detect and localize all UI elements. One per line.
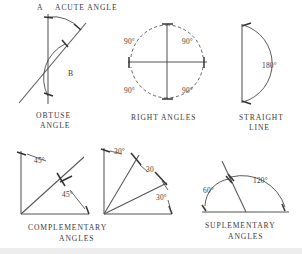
complementary-upper-value: 45° (34, 156, 45, 165)
thirds-right-arrow (169, 206, 172, 214)
figure-straight-line: 180° STRAIGHT LINE (239, 23, 284, 132)
quadrant-upper-left-value: 90° (124, 37, 135, 46)
complementary-diagonal-ray (21, 157, 84, 214)
thirds-third-value: 30° (156, 193, 167, 202)
supplementary-transversal-ray (222, 161, 246, 212)
obtuse-arc-start-arrow (62, 40, 68, 47)
thirds-tick-lower (155, 172, 167, 185)
angles-diagram-canvas: A B ACUTE ANGLE OBTUSE ANGLE 90° 90° 90°… (0, 0, 302, 254)
straight-arc-top-arrow (242, 23, 251, 26)
obtuse-diagonal-ray (19, 23, 86, 103)
acute-arc-start-tick (44, 17, 53, 18)
complementary-caption-line2: ANGLES (59, 234, 94, 243)
quadrant-arc-lower-left (131, 67, 167, 98)
supplementary-caption-line1: SUPLEMENTARY (205, 221, 276, 230)
angle-a-label: A (37, 3, 43, 12)
straight-caption-line1: STRAIGHT (239, 113, 284, 122)
supplementary-left-value: 60° (203, 186, 214, 195)
thirds-first-value: 30° (114, 147, 125, 156)
right-angles-caption: RIGHT ANGLES (131, 113, 196, 122)
thirds-tick-upper (131, 153, 141, 165)
obtuse-caption-line2: ANGLE (40, 121, 70, 130)
figure-obtuse-angle: A B ACUTE ANGLE OBTUSE ANGLE (19, 3, 117, 130)
figure-right-angles: 90° 90° 90° 90° RIGHT ANGLES (124, 24, 207, 122)
thirds-top-arrow (101, 149, 110, 152)
complementary-right-arrow (86, 206, 89, 214)
acute-arc-end-arrow (74, 24, 81, 30)
thirds-second-value: 30 (146, 165, 154, 174)
supplementary-caption-line2: ANGLES (228, 232, 263, 241)
complementary-lower-value: 45° (62, 190, 73, 199)
straight-angle-value: 180° (262, 61, 277, 70)
angle-b-label: B (68, 69, 73, 78)
straight-arc-bottom-arrow (242, 101, 251, 104)
acute-angle-title: ACUTE ANGLE (55, 3, 117, 12)
quadrant-arc-upper-left (131, 25, 167, 57)
figure-thirds-right-angle: 30° 30 30° (101, 147, 172, 214)
figure-supplementary-angles: 60° 120° SUPLEMENTARY ANGLES (202, 161, 289, 241)
obtuse-caption-line1: OBTUSE (36, 111, 71, 120)
quadrant-lower-left-value: 90° (124, 86, 135, 95)
supplementary-right-value: 120° (253, 176, 268, 185)
complementary-caption-line1: COMPLEMENTARY (28, 223, 107, 232)
straight-caption-line2: LINE (249, 123, 270, 132)
quadrant-lower-right-value: 90° (182, 86, 193, 95)
diagram-sheet: A B ACUTE ANGLE OBTUSE ANGLE 90° 90° 90°… (0, 0, 302, 254)
quadrant-upper-right-value: 90° (182, 37, 193, 46)
thirds-leader-bottom (168, 200, 170, 207)
bottom-edge-band (0, 248, 302, 254)
figure-complementary-angles: 45° 45° COMPLEMENTARY ANGLES (17, 151, 107, 243)
